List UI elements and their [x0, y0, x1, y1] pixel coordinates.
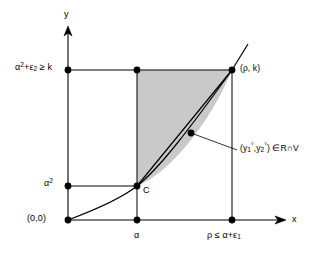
y-tick-alpha2-exponent: 2: [49, 177, 53, 184]
y-tick-k-mid: +ε: [24, 62, 33, 72]
y-tick-k-tail: ≥ k: [37, 62, 52, 72]
math-diagram: y x (0,0) α2+ε2 ≥ k α2 α ρ ≤ α+ε1 C (ρ, …: [0, 0, 330, 258]
dot-origin: [65, 217, 72, 224]
dot-interior-point: [188, 130, 195, 137]
dot-rho-k: [229, 67, 236, 74]
dot-alpha-squared-axis: [65, 183, 72, 190]
x-tick-label-rho: ρ ≤ α+ε1: [207, 231, 241, 240]
x-axis-label: x: [292, 215, 297, 224]
dot-alpha-k: [134, 67, 141, 74]
x-tick-rho-subscript: 1: [237, 233, 241, 240]
y-tick-label-k: α2+ε2 ≥ k: [15, 63, 52, 72]
y-axis-label: y: [64, 10, 69, 19]
point-label-rho-k: (ρ, k): [240, 64, 260, 73]
dot-k-axis: [65, 67, 72, 74]
point-label-c: C: [143, 186, 150, 195]
x-tick-label-alpha: α: [134, 231, 139, 240]
dot-rho-axis: [229, 217, 236, 224]
x-tick-rho-base: ρ ≤ α+ε: [207, 230, 237, 240]
leader-line: [191, 133, 237, 150]
point-label-interior: (y1°,y2°) ∈R∩V: [240, 144, 299, 153]
interior-mid: ,y: [254, 143, 261, 153]
y-tick-label-alpha-squared: α2: [44, 179, 53, 188]
dot-alpha-axis: [134, 217, 141, 224]
diagram-canvas: [0, 0, 330, 258]
origin-label: (0,0): [27, 214, 46, 223]
dot-corner-c: [134, 183, 141, 190]
interior-suffix: ) ∈R∩V: [267, 143, 299, 153]
